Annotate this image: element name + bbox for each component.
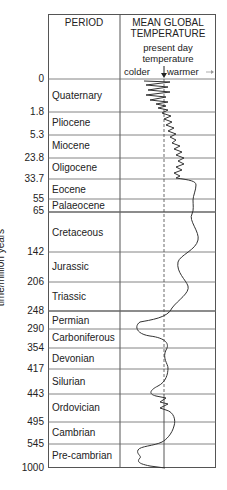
period-carboniferous: Carboniferous (52, 332, 115, 343)
arrow-down-icon (161, 73, 167, 78)
period-quaternary: Quaternary (52, 90, 102, 101)
period-silurian: Silurian (52, 376, 85, 387)
tick-248: 248 (0, 305, 44, 316)
period-ordovician: Ordovician (52, 402, 100, 413)
tick-5-3: 5.3 (0, 129, 44, 140)
tick-206: 206 (0, 276, 44, 287)
tick-55: 55 (0, 193, 44, 204)
tick-545: 545 (0, 438, 44, 449)
period-devonian: Devonian (52, 353, 94, 364)
period-cretaceous: Cretaceous (52, 227, 103, 238)
arrow-right-icon (211, 70, 214, 74)
tick-290: 290 (0, 323, 44, 334)
period-oligocene: Oligocene (52, 162, 97, 173)
period-jurassic: Jurassic (52, 261, 89, 272)
tick-443: 443 (0, 388, 44, 399)
tick-417: 417 (0, 363, 44, 374)
period-eocene: Eocene (52, 184, 86, 195)
period-cambrian: Cambrian (52, 427, 95, 438)
tick-65: 65 (0, 205, 44, 216)
period-miocene: Miocene (52, 140, 90, 151)
period-pre-cambrian: Pre-cambrian (52, 450, 112, 461)
tick-0: 0 (0, 73, 44, 84)
period-pliocene: Pliocene (52, 117, 90, 128)
period-permian: Permian (52, 315, 89, 326)
temperature-curve (137, 81, 198, 468)
period-palaeocene: Palaeocene (52, 200, 105, 211)
tick-495: 495 (0, 416, 44, 427)
tick-23-8: 23.8 (0, 152, 44, 163)
tick-1-8: 1.8 (0, 106, 44, 117)
tick-142: 142 (0, 246, 44, 257)
period-triassic: Triassic (52, 291, 86, 302)
tick-354: 354 (0, 342, 44, 353)
y-axis-label: time/million years (0, 229, 6, 306)
tick-1000: 1000 (0, 462, 44, 473)
tick-33-7: 33.7 (0, 173, 44, 184)
